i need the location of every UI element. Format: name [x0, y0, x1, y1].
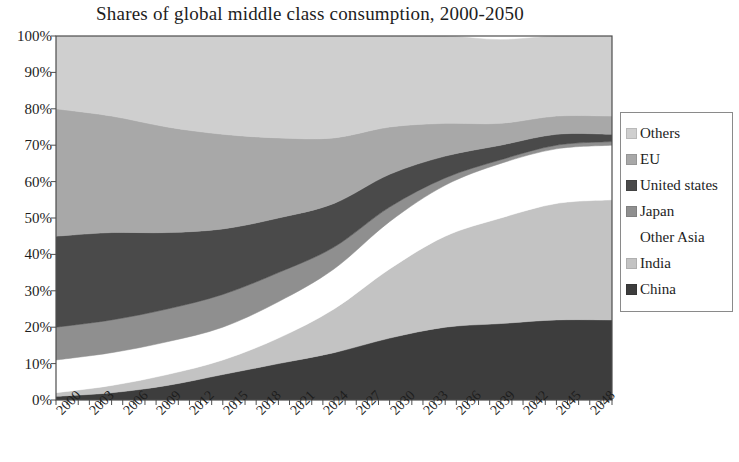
legend-item-label: EU — [640, 152, 660, 167]
legend-item-other-asia[interactable]: Other Asia — [626, 224, 728, 250]
legend-swatch-icon — [626, 258, 637, 269]
legend-swatch-icon — [626, 180, 637, 191]
legend-item-japan[interactable]: Japan — [626, 198, 728, 224]
legend-item-eu[interactable]: EU — [626, 146, 728, 172]
legend-item-label: Others — [640, 126, 680, 141]
legend-item-united-states[interactable]: United states — [626, 172, 728, 198]
legend-swatch-icon — [626, 232, 637, 243]
plot-area — [0, 28, 620, 408]
legend-item-label: Other Asia — [640, 230, 705, 245]
legend-item-label: Japan — [640, 204, 674, 219]
chart-figure: Shares of global middle class consumptio… — [0, 0, 739, 462]
x-axis: 2000200320062009201220152018202120242027… — [0, 404, 620, 462]
legend-item-label: United states — [640, 178, 718, 193]
chart-legend: OthersEUUnited statesJapanOther AsiaIndi… — [620, 112, 733, 312]
legend-item-others[interactable]: Others — [626, 120, 728, 146]
legend-swatch-icon — [626, 206, 637, 217]
y-tick-marks — [51, 36, 56, 400]
legend-swatch-icon — [626, 284, 637, 295]
legend-item-label: India — [640, 256, 671, 271]
legend-item-label: China — [640, 282, 676, 297]
stacked-area-plot — [0, 28, 620, 408]
area-series-group — [56, 36, 612, 400]
legend-swatch-icon — [626, 154, 637, 165]
legend-swatch-icon — [626, 128, 637, 139]
legend-item-china[interactable]: China — [626, 276, 728, 302]
legend-item-india[interactable]: India — [626, 250, 728, 276]
chart-title: Shares of global middle class consumptio… — [0, 3, 620, 25]
